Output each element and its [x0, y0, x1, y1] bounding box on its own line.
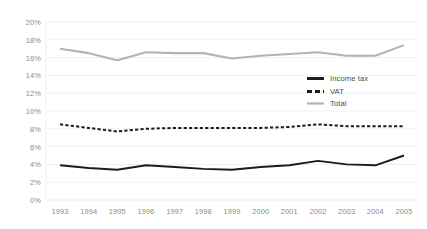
series-lines [46, 22, 418, 200]
x-axis-tick-label: 1999 [223, 207, 240, 216]
x-axis-tick-label: 2002 [309, 207, 326, 216]
solid-gray-line-swatch [307, 99, 324, 108]
y-axis-tick-label: 2% [30, 178, 41, 187]
series-line-vat [60, 124, 404, 131]
series-line-total [60, 45, 404, 60]
legend-item-label: Income tax [330, 74, 368, 83]
y-axis-tick-label: 10% [26, 107, 41, 116]
y-axis-tick-label: 4% [30, 160, 41, 169]
x-axis-tick-label: 2000 [252, 207, 269, 216]
legend-item[interactable]: VAT [307, 87, 368, 96]
y-axis-tick-label: 18% [26, 35, 41, 44]
y-axis-tick-label: 12% [26, 89, 41, 98]
x-axis-tick-label: 2004 [367, 207, 384, 216]
x-axis-tick-label: 2001 [281, 207, 298, 216]
dashed-black-line-swatch [307, 87, 324, 96]
legend-item-label: VAT [330, 87, 344, 96]
x-axis-tick-label: 1996 [137, 207, 154, 216]
x-axis-tick-label: 1995 [109, 207, 126, 216]
line-chart: 0%2%4%6%8%10%12%14%16%18%20% 19931994199… [0, 0, 427, 229]
chart-legend: Income taxVATTotal [307, 74, 368, 108]
y-axis-tick-label: 20% [26, 18, 41, 27]
series-line-income-tax [60, 156, 404, 170]
x-axis-tick-label: 1998 [195, 207, 212, 216]
y-axis: 0%2%4%6%8%10%12%14%16%18%20% [0, 0, 41, 229]
x-axis-tick-label: 2005 [395, 207, 412, 216]
legend-item[interactable]: Total [307, 99, 368, 108]
y-axis-tick-label: 16% [26, 53, 41, 62]
y-axis-tick-label: 14% [26, 71, 41, 80]
plot-area [46, 22, 418, 200]
x-axis-tick-label: 1997 [166, 207, 183, 216]
x-axis-tick-label: 2003 [338, 207, 355, 216]
y-axis-tick-label: 0% [30, 196, 41, 205]
y-axis-tick-label: 6% [30, 142, 41, 151]
x-axis: 1993199419951996199719981999200020012002… [0, 207, 427, 223]
x-axis-tick-label: 1993 [51, 207, 68, 216]
x-axis-tick-label: 1994 [80, 207, 97, 216]
legend-item-label: Total [330, 99, 347, 108]
solid-black-line-swatch [307, 74, 324, 83]
y-axis-tick-label: 8% [30, 124, 41, 133]
legend-item[interactable]: Income tax [307, 74, 368, 83]
